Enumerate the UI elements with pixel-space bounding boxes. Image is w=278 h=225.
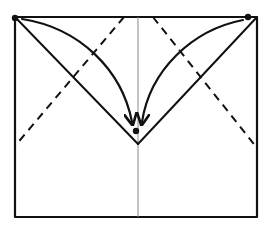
target-center-dot	[133, 128, 139, 134]
fold-diagram	[0, 0, 278, 225]
solid-v-lines	[15, 17, 257, 144]
top-left-corner-dot	[12, 15, 18, 21]
diagram-canvas	[0, 0, 278, 225]
fold-arrows	[22, 19, 243, 122]
top-right-corner-dot	[245, 14, 251, 20]
left-fold-arrow-icon	[22, 19, 132, 122]
paper-outline	[15, 17, 257, 217]
paper-square	[15, 17, 257, 217]
right-fold-arrow-icon	[142, 20, 243, 122]
right-valley-fold	[153, 17, 257, 148]
